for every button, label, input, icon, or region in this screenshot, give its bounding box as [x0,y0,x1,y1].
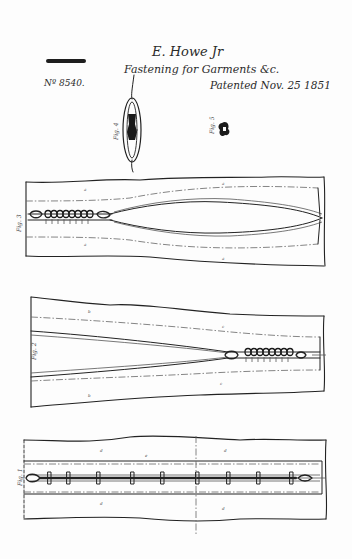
slider-end-fig-3 [97,211,110,217]
fig-4-label: Fig. 4 [112,122,120,141]
svg-text:a: a [84,187,87,192]
fig-3-label: Fig. 3 [15,214,23,233]
patent-sheet: Nº 8540. E. Howe Jr Fastening for Garmen… [0,0,352,559]
svg-text:b: b [88,309,91,314]
figure-5: Fig. 5 [208,116,229,136]
figure-4: Fig. 4 [112,75,141,172]
patent-drawing: Nº 8540. E. Howe Jr Fastening for Garmen… [0,0,352,559]
slider-end-fig-2 [296,352,306,358]
svg-text:a: a [222,256,225,261]
figure-3: Fig. 3 a a [15,177,325,266]
svg-text:d: d [222,506,225,511]
svg-text:a: a [84,242,87,247]
inventor-name: E. Howe Jr [151,44,224,59]
fig-5-label: Fig. 5 [208,116,216,135]
fig-1-label: Fig. 1 [16,468,24,487]
svg-text:e: e [145,453,148,458]
ink-blot [46,59,86,63]
patent-date: Patented Nov. 25 1851 [209,79,331,91]
patent-number: Nº 8540. [43,78,85,88]
patent-title: Fastening for Garments &c. [123,63,279,76]
svg-text:d: d [224,448,227,453]
figure-1: Fig. 1 d e d d [16,436,327,535]
svg-text:b: b [88,393,91,398]
svg-text:d: d [100,448,103,453]
svg-text:d: d [100,501,103,506]
svg-text:c: c [222,324,225,329]
coil-chain-fig-2 [245,349,293,363]
svg-text:c: c [220,381,223,386]
svg-text:a: a [222,181,225,186]
figure-2: Fig. 2 b b c c [30,297,326,407]
coil-chain-fig-3 [45,211,93,225]
